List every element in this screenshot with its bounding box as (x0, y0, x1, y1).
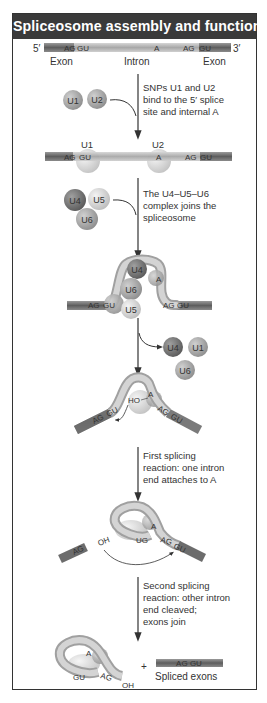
svg-text:reaction: other intron: reaction: other intron (143, 592, 230, 603)
spliced-exons-label: Spliced exons (155, 671, 217, 682)
svg-text:U4: U4 (167, 343, 179, 353)
svg-text:A: A (156, 275, 162, 284)
svg-text:A: A (151, 522, 157, 531)
svg-text:GU: GU (73, 673, 85, 682)
svg-text:U6: U6 (125, 285, 137, 295)
bent-strand: AG GU HO A AG GU (76, 377, 200, 430)
svg-text:U2: U2 (91, 95, 103, 105)
spliceosome-diagram: 5′ AG GU A AG GU 3′ Exon Intron Exon SNP… (0, 0, 267, 703)
release-curve (139, 333, 160, 347)
step5-text: Second splicing reaction: other intron e… (143, 580, 230, 627)
released-u4: U4 (163, 337, 183, 357)
u6-particle: U6 (76, 208, 98, 230)
spliceosome-complex: U4 U6 U5 AG GU A AG GU (67, 259, 212, 319)
svg-text:GU: GU (200, 153, 212, 162)
svg-text:AG: AG (99, 671, 112, 683)
step4-text: First splicing reaction: one intron end … (143, 450, 224, 485)
svg-text:U1: U1 (192, 343, 204, 353)
lariat-intermediate: AG OH A UG AG GU (60, 506, 204, 565)
lariat-product: A GU AG OH (60, 640, 134, 690)
svg-text:HO: HO (128, 396, 140, 405)
svg-text:U2: U2 (152, 139, 164, 150)
u4-particle: U4 (64, 189, 86, 211)
svg-text:AG: AG (64, 153, 76, 162)
svg-text:U5: U5 (125, 305, 137, 315)
svg-text:A: A (86, 649, 92, 658)
seq-ag-right: AG (183, 44, 195, 53)
u5-particle: U5 (88, 188, 110, 210)
seq-gu-right: GU (199, 44, 211, 53)
seq-gu-left: GU (77, 44, 89, 53)
svg-text:AG: AG (88, 301, 100, 310)
released-u1: U1 (188, 337, 208, 357)
step1-curve (110, 100, 136, 116)
svg-text:reaction: one intron: reaction: one intron (143, 462, 224, 473)
svg-text:U1: U1 (67, 96, 79, 106)
svg-text:OH: OH (97, 535, 112, 548)
five-prime-label: 5′ (33, 43, 41, 54)
svg-text:U4: U4 (69, 196, 81, 206)
svg-text:AG: AG (163, 301, 175, 310)
three-prime-label: 3′ (233, 43, 241, 54)
svg-text:end attaches to A: end attaches to A (143, 474, 217, 485)
svg-text:The U4–U5–U6: The U4–U5–U6 (143, 188, 209, 199)
svg-text:site and internal A: site and internal A (143, 106, 219, 117)
svg-text:OH: OH (122, 681, 134, 690)
svg-text:First splicing: First splicing (143, 450, 196, 461)
seq-branch-a: A (154, 44, 160, 53)
svg-text:A: A (148, 390, 154, 399)
svg-text:spliceosome: spliceosome (143, 212, 196, 223)
svg-text:end cleaved;: end cleaved; (143, 604, 197, 615)
step2-text: The U4–U5–U6 complex joins the spliceoso… (143, 188, 216, 223)
u2-particle: U2 (87, 89, 107, 109)
svg-text:AG: AG (185, 153, 197, 162)
svg-text:Second splicing: Second splicing (143, 580, 210, 591)
released-u6: U6 (175, 360, 195, 380)
svg-text:SNPs U1 and U2: SNPs U1 and U2 (143, 82, 215, 93)
svg-text:bind to the 5′ splice: bind to the 5′ splice (143, 94, 224, 105)
svg-text:GU: GU (79, 153, 91, 162)
intron (74, 43, 199, 52)
exon-right-label: Exon (203, 56, 226, 67)
svg-text:U1: U1 (81, 139, 93, 150)
svg-text:AG: AG (159, 535, 172, 547)
u1-particle: U1 (63, 90, 83, 110)
spliced-exons: AG GU Spliced exons (155, 659, 223, 682)
svg-text:GU: GU (103, 301, 115, 310)
svg-text:AG GU: AG GU (176, 659, 202, 668)
intron-label: Intron (124, 56, 150, 67)
svg-text:U6: U6 (179, 366, 191, 376)
svg-text:A: A (156, 153, 162, 162)
svg-text:exons join: exons join (143, 616, 186, 627)
svg-text:UG: UG (136, 536, 148, 545)
seq-ag-left: AG (64, 44, 76, 53)
svg-text:U4: U4 (131, 265, 143, 275)
exon-left-label: Exon (50, 56, 73, 67)
plus-sign: + (141, 661, 147, 672)
svg-text:complex joins the: complex joins the (143, 200, 216, 211)
pre-mrna: 5′ AG GU A AG GU 3′ Exon Intron Exon (33, 43, 241, 67)
bound-strand: U1 U2 AG GU A AG GU (45, 139, 232, 173)
svg-text:GU: GU (177, 301, 189, 310)
svg-text:U6: U6 (81, 215, 93, 225)
step2-curve (113, 200, 136, 215)
svg-text:U5: U5 (93, 195, 105, 205)
step1-text: SNPs U1 and U2 bind to the 5′ splice sit… (143, 82, 224, 117)
